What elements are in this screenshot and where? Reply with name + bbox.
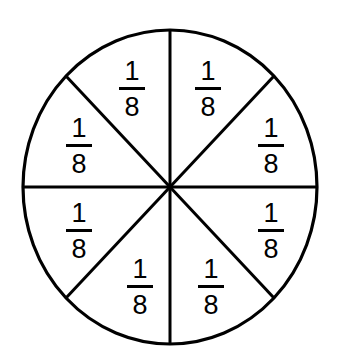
fraction-bar [119,87,145,90]
sector-label-top-right: 1 8 [185,57,231,121]
fraction-one-eighth: 1 8 [258,114,284,178]
sector-label-left-upper: 1 8 [56,114,102,178]
sector-label-right-lower: 1 8 [248,199,294,263]
sector-label-top-left: 1 8 [109,57,155,121]
fraction-one-eighth: 1 8 [119,57,145,121]
fraction-denominator: 8 [195,92,221,121]
fraction-one-eighth: 1 8 [195,57,221,121]
sector-label-right-upper: 1 8 [248,114,294,178]
fraction-numerator: 1 [127,255,153,284]
fraction-numerator: 1 [198,255,224,284]
fraction-bar [198,285,224,288]
fraction-circle-figure: 1 8 1 8 1 8 1 8 1 8 [0,0,338,362]
fraction-numerator: 1 [66,114,92,143]
fraction-one-eighth: 1 8 [198,255,224,319]
fraction-bar [258,229,284,232]
fraction-one-eighth: 1 8 [66,114,92,178]
fraction-bar [195,87,221,90]
fraction-numerator: 1 [195,57,221,86]
fraction-denominator: 8 [198,290,224,319]
fraction-denominator: 8 [66,149,92,178]
fraction-one-eighth: 1 8 [66,199,92,263]
fraction-circle-diagram [0,0,338,362]
fraction-denominator: 8 [119,92,145,121]
sector-label-bottom-left: 1 8 [117,255,163,319]
fraction-bar [258,144,284,147]
fraction-denominator: 8 [258,234,284,263]
fraction-numerator: 1 [258,114,284,143]
fraction-one-eighth: 1 8 [258,199,284,263]
fraction-numerator: 1 [258,199,284,228]
sector-label-bottom-right: 1 8 [188,255,234,319]
fraction-numerator: 1 [119,57,145,86]
fraction-bar [66,144,92,147]
fraction-denominator: 8 [127,290,153,319]
sector-label-left-lower: 1 8 [56,199,102,263]
fraction-numerator: 1 [66,199,92,228]
fraction-bar [66,229,92,232]
fraction-bar [127,285,153,288]
fraction-denominator: 8 [66,234,92,263]
fraction-one-eighth: 1 8 [127,255,153,319]
fraction-denominator: 8 [258,149,284,178]
